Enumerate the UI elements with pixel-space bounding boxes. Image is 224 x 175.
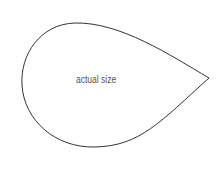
- actual-size-label: actual size: [76, 74, 116, 85]
- teardrop-shape: [0, 0, 224, 175]
